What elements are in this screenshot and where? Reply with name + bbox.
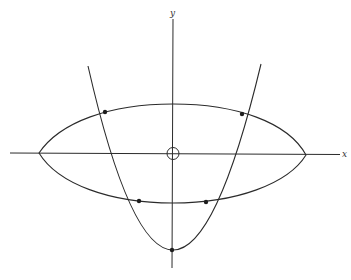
y-axis [172,19,173,268]
upper-left-intersection-point [103,110,107,114]
parabola-vertex-point [170,248,174,252]
parabola-curve [88,64,261,250]
ellipse-parabola-diagram: x y [0,0,351,280]
y-axis-label: y [169,8,176,18]
x-axis [10,153,340,155]
lower-left-intersection-point [137,199,141,203]
lower-right-intersection-point [204,200,208,204]
upper-right-intersection-point [240,112,244,116]
x-axis-label: x [342,149,347,159]
